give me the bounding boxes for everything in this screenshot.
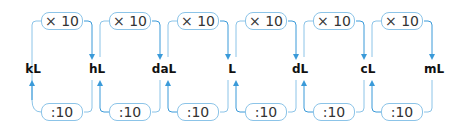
unit-dl: dL [292, 62, 308, 76]
unit-cl: cL [361, 62, 376, 76]
divide-box-4: :10 [245, 103, 287, 121]
unit-dal: daL [152, 62, 176, 76]
unit-kl: kL [25, 62, 41, 76]
multiply-box-6: × 10 [381, 12, 423, 30]
divide-box-2: :10 [109, 103, 151, 121]
multiply-box-5: × 10 [313, 12, 355, 30]
unit-hl: hL [89, 62, 105, 76]
divide-box-5: :10 [313, 103, 355, 121]
divide-box-3: :10 [177, 103, 219, 121]
unit-ml: mL [424, 62, 444, 76]
multiply-box-4: × 10 [245, 12, 287, 30]
multiply-box-3: × 10 [177, 12, 219, 30]
multiply-box-1: × 10 [41, 12, 83, 30]
divide-box-1: :10 [41, 103, 83, 121]
multiply-box-2: × 10 [109, 12, 151, 30]
unit-l: L [228, 62, 236, 76]
divide-box-6: :10 [381, 103, 423, 121]
